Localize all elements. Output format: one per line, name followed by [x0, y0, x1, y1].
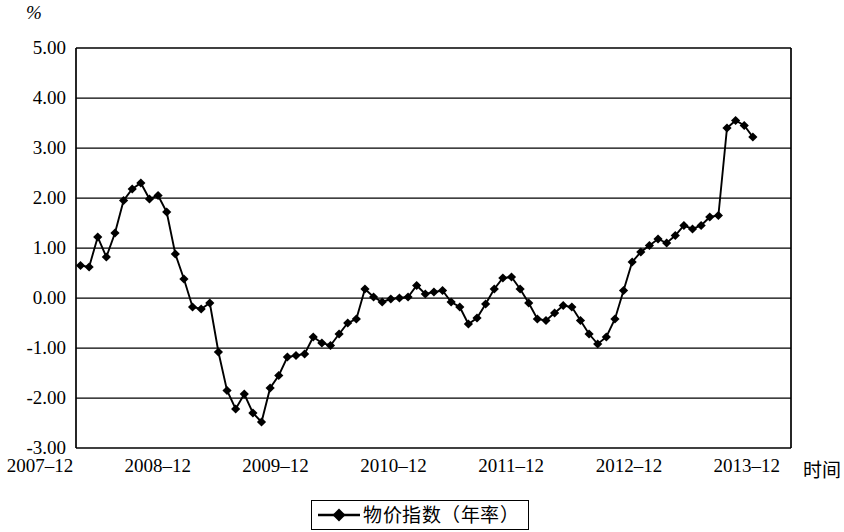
- data-point-marker: [188, 302, 197, 311]
- data-point-marker: [171, 249, 180, 258]
- chart-container: % 5.004.003.002.001.000.00-1.00-2.00-3.0…: [0, 0, 844, 532]
- data-point-marker: [179, 274, 188, 283]
- data-point-marker: [300, 349, 309, 358]
- data-point-marker: [576, 316, 585, 325]
- data-point-marker: [481, 299, 490, 308]
- data-point-marker: [76, 261, 85, 270]
- data-point-marker: [153, 191, 162, 200]
- data-point-marker: [352, 314, 361, 323]
- data-point-marker: [533, 314, 542, 323]
- series-line-price-index: [81, 121, 753, 423]
- data-point-marker: [619, 286, 628, 295]
- data-point-marker: [714, 211, 723, 220]
- data-point-marker: [283, 352, 292, 361]
- data-point-marker: [145, 194, 154, 203]
- data-point-marker: [214, 347, 223, 356]
- legend-diamond-icon: [318, 507, 360, 523]
- data-point-marker: [610, 314, 619, 323]
- data-point-marker: [222, 386, 231, 395]
- data-point-marker: [395, 293, 404, 302]
- data-point-marker: [567, 302, 576, 311]
- data-point-marker: [240, 389, 249, 398]
- data-point-marker: [386, 294, 395, 303]
- data-point-marker: [231, 404, 240, 413]
- data-point-marker: [85, 262, 94, 271]
- data-point-marker: [162, 207, 171, 216]
- data-point-marker: [455, 302, 464, 311]
- line-chart-plot: [0, 0, 844, 532]
- data-point-marker: [429, 287, 438, 296]
- data-point-marker: [688, 224, 697, 233]
- legend-label-price-index: 物价指数（年率）: [363, 506, 519, 525]
- data-point-marker: [102, 252, 111, 261]
- data-point-marker: [291, 351, 300, 360]
- data-point-marker: [524, 298, 533, 307]
- gridlines: [76, 48, 791, 448]
- data-point-marker: [93, 232, 102, 241]
- data-point-marker: [378, 297, 387, 306]
- series-markers-price-index: [76, 116, 758, 427]
- data-point-marker: [110, 228, 119, 237]
- chart-legend: 物价指数（年率）: [311, 500, 529, 530]
